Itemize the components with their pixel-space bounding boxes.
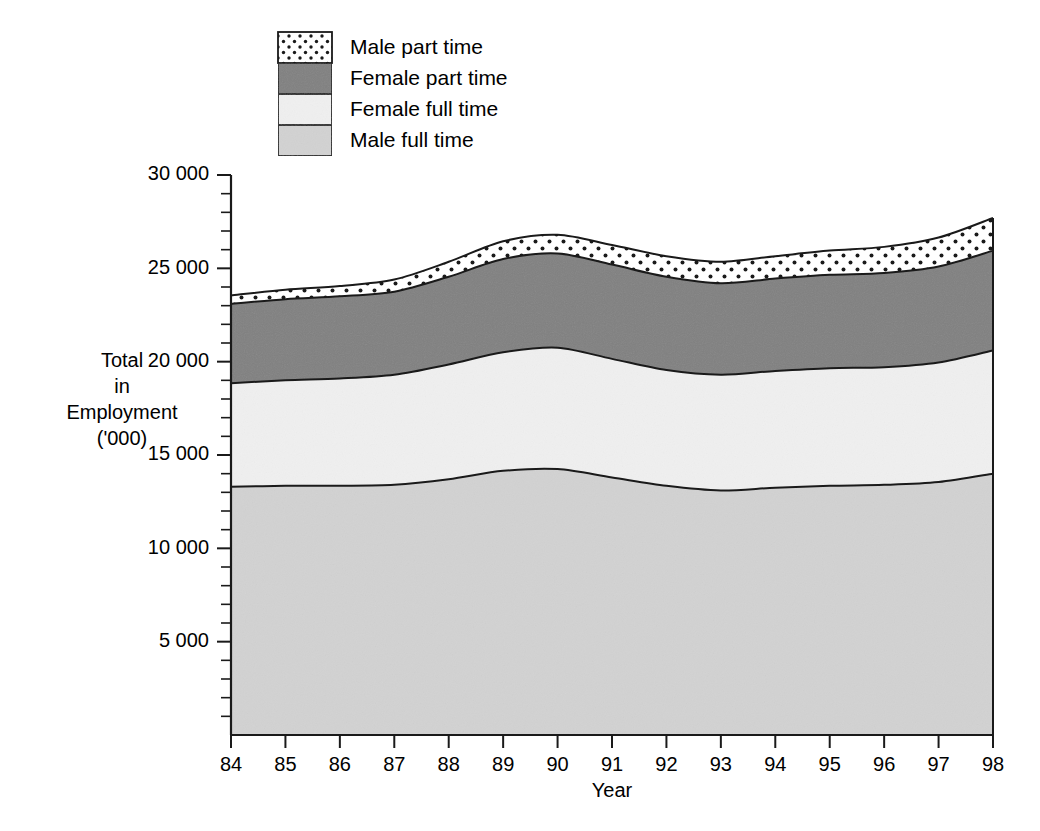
x-tick-label: 96 [873, 753, 895, 775]
x-axis-title: Year [592, 779, 633, 801]
legend-label-male-part-time: Male part time [350, 35, 483, 58]
x-tick-label: 86 [329, 753, 351, 775]
y-axis-title-line: Total [101, 349, 143, 371]
legend-label-male-full-time: Male full time [350, 128, 474, 151]
y-axis-title-line: ('000) [97, 427, 148, 449]
legend-swatch-male-full-time [278, 125, 332, 156]
legend-label-female-part-time: Female part time [350, 66, 508, 89]
x-tick-label: 84 [220, 753, 242, 775]
x-tick-label: 97 [927, 753, 949, 775]
x-tick-label: 95 [819, 753, 841, 775]
x-tick-label: 92 [655, 753, 677, 775]
x-tick-label: 88 [438, 753, 460, 775]
y-axis-title-line: in [114, 375, 130, 397]
y-tick-label: 10 000 [148, 536, 209, 558]
chart-container: 5 00010 00015 00020 00025 00030 00084858… [0, 0, 1040, 831]
x-tick-label: 98 [982, 753, 1004, 775]
y-tick-label: 5 000 [159, 629, 209, 651]
x-tick-label: 85 [274, 753, 296, 775]
x-tick-label: 90 [546, 753, 568, 775]
x-tick-label: 93 [710, 753, 732, 775]
legend-swatch-female-part-time [278, 63, 332, 94]
y-tick-label: 20 000 [148, 349, 209, 371]
x-tick-label: 91 [601, 753, 623, 775]
area-series-male-full-time [231, 469, 993, 735]
x-tick-label: 94 [764, 753, 786, 775]
x-tick-label: 89 [492, 753, 514, 775]
y-axis-title-line: Employment [66, 401, 178, 423]
x-tick-label: 87 [383, 753, 405, 775]
legend-swatch-male-part-time [278, 32, 332, 63]
legend-label-female-full-time: Female full time [350, 97, 498, 120]
stacked-area-chart: 5 00010 00015 00020 00025 00030 00084858… [0, 0, 1040, 831]
y-tick-label: 15 000 [148, 442, 209, 464]
chart-legend: Male part timeFemale part timeFemale ful… [278, 32, 508, 156]
y-tick-label: 30 000 [148, 162, 209, 184]
legend-swatch-female-full-time [278, 94, 332, 125]
y-tick-label: 25 000 [148, 256, 209, 278]
